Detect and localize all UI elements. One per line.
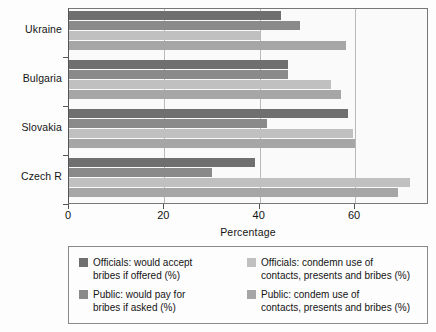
legend-swatch-icon — [79, 258, 88, 267]
legend-item[interactable]: Officials: condemn use ofcontacts, prese… — [247, 256, 423, 282]
bar-officials-condemn-czechr — [69, 178, 410, 187]
plot-area — [68, 8, 428, 204]
x-tick-label-20: 20 — [143, 209, 183, 221]
x-tick-label-0: 0 — [48, 209, 88, 221]
category-tick — [63, 106, 68, 107]
bar-officials-condemn-ukraine — [69, 31, 260, 40]
category-tick — [63, 57, 68, 58]
legend-label: Public: condem use ofcontacts, presents … — [261, 288, 410, 314]
bar-groups — [69, 9, 427, 203]
legend-swatch-icon — [79, 290, 88, 299]
legend-item[interactable]: Officials: would acceptbribes if offered… — [79, 256, 244, 282]
bar-group — [69, 11, 427, 50]
legend-label: Public: would pay forbribes if asked (%) — [93, 288, 185, 314]
category-label-bulgaria: Bulgaria — [0, 72, 62, 84]
bar-public-condemn-czechr — [69, 188, 398, 197]
chart-legend: Officials: would acceptbribes if offered… — [68, 246, 428, 324]
bar-public-pay-bribes-bulgaria — [69, 70, 288, 79]
legend-label: Officials: would acceptbribes if offered… — [93, 256, 192, 282]
bar-officials-accept-bribes-czechr — [69, 158, 255, 167]
legend-label: Officials: condemn use ofcontacts, prese… — [261, 256, 410, 282]
bar-public-pay-bribes-slovakia — [69, 119, 267, 128]
category-label-slovakia: Slovakia — [0, 121, 62, 133]
x-axis-title: Percentage — [68, 226, 428, 238]
bar-officials-condemn-bulgaria — [69, 80, 331, 89]
x-tick-label-40: 40 — [239, 209, 279, 221]
bar-public-pay-bribes-ukraine — [69, 21, 300, 30]
category-label-czechr: Czech R — [0, 170, 62, 182]
bar-public-condemn-slovakia — [69, 139, 355, 148]
category-label-ukraine: Ukraine — [0, 23, 62, 35]
bar-officials-accept-bribes-slovakia — [69, 109, 348, 118]
x-tick-label-60: 60 — [334, 209, 374, 221]
bar-public-pay-bribes-czechr — [69, 168, 212, 177]
legend-swatch-icon — [247, 290, 256, 299]
bar-officials-accept-bribes-bulgaria — [69, 60, 288, 69]
legend-item[interactable]: Public: condem use ofcontacts, presents … — [247, 288, 423, 314]
legend-swatch-icon — [247, 258, 256, 267]
bar-public-condemn-bulgaria — [69, 90, 341, 99]
category-tick — [63, 155, 68, 156]
bar-officials-condemn-slovakia — [69, 129, 353, 138]
bar-chart-figure: UkraineBulgariaSlovakiaCzech R 0204060 P… — [0, 0, 436, 332]
bar-group — [69, 60, 427, 99]
bar-group — [69, 158, 427, 197]
bar-officials-accept-bribes-ukraine — [69, 11, 281, 20]
bar-public-condemn-ukraine — [69, 41, 346, 50]
bar-group — [69, 109, 427, 148]
legend-item[interactable]: Public: would pay forbribes if asked (%) — [79, 288, 244, 314]
